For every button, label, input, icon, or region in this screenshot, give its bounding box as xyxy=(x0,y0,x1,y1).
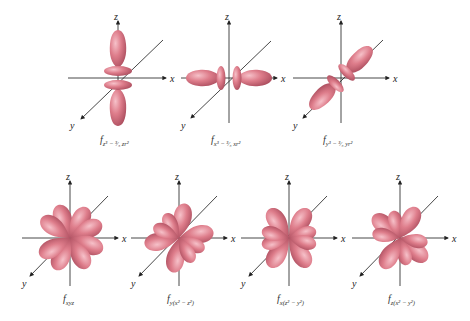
z-axis-label: z xyxy=(284,171,289,182)
orbital-fy3: x z y fy³ − ³⁄₅ yr² xyxy=(292,11,398,147)
orbital-fx3: x z y fx³ − ³⁄₅ xr² xyxy=(180,11,286,147)
x-axis-label: x xyxy=(121,233,127,244)
orbital-label: fz(x² − y²) xyxy=(388,293,415,307)
z-axis-label: z xyxy=(224,11,229,22)
z-axis-label: z xyxy=(174,171,179,182)
y-axis-label: y xyxy=(292,120,298,131)
x-axis-label: x xyxy=(280,73,286,84)
y-axis-label: y xyxy=(21,278,27,289)
y-axis-label: y xyxy=(240,278,246,289)
orbital-label: fy(x² − z²) xyxy=(167,293,194,307)
y-axis-label: y xyxy=(69,120,75,131)
z-axis-label: z xyxy=(395,171,400,182)
orbital-label: fz³ − ³⁄₅ zr² xyxy=(100,134,130,147)
orbital-label: fxyz xyxy=(63,293,75,306)
z-axis-label: z xyxy=(113,11,118,22)
orbital-label: fx³ − ³⁄₅ xr² xyxy=(211,134,242,147)
orbital-fy-x2-z2: x z y fy(x² − z²) xyxy=(130,171,236,307)
f-orbitals-diagram: x z y fz³ − ³⁄₅ zr² x z y fx³ − ³⁄₅ xr² … xyxy=(0,0,470,321)
x-axis-label: x xyxy=(230,233,236,244)
orbital-fx-z2-y2: x z y fx(z² − y²) xyxy=(240,171,346,307)
z-axis-label: z xyxy=(336,11,341,22)
y-axis-label: y xyxy=(351,278,357,289)
z-axis-label: z xyxy=(65,171,70,182)
x-axis-label: x xyxy=(451,233,457,244)
orbital-fz-x2-y2: x z y fz(x² − y²) xyxy=(351,171,457,307)
x-axis-label: x xyxy=(169,73,175,84)
orbital-label: fy³ − ³⁄₅ yr² xyxy=(323,134,354,147)
y-axis-label: y xyxy=(130,278,136,289)
orbital-label: fx(z² − y²) xyxy=(277,293,304,307)
orbital-fz3: x z y fz³ − ³⁄₅ zr² xyxy=(68,11,175,147)
lobes xyxy=(143,202,215,274)
orbital-fxyz: x z y fxyz xyxy=(21,171,127,306)
y-axis-label: y xyxy=(180,120,186,131)
x-axis-label: x xyxy=(340,233,346,244)
x-axis-label: x xyxy=(392,73,398,84)
